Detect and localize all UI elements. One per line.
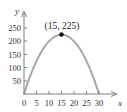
y-tick-label: 100 <box>8 63 21 73</box>
y-axis-label: y <box>14 6 19 16</box>
y-tick-label: 200 <box>8 36 21 46</box>
y-tick-label: 150 <box>8 50 21 60</box>
x-tick-label: 5 <box>34 98 38 108</box>
x-tick-label: 10 <box>45 98 54 108</box>
x-tick-label: 20 <box>70 98 79 108</box>
x-tick-label: 0 <box>22 98 26 108</box>
x-tick-label: 15 <box>57 98 66 108</box>
x-axis-label: x <box>117 98 122 108</box>
x-tick-label: 25 <box>82 98 91 108</box>
vertex-point <box>59 32 63 36</box>
vertex-annotation: (15, 225) <box>45 21 80 32</box>
x-tick-label: 30 <box>95 98 104 108</box>
parabola-curve <box>24 35 99 94</box>
y-tick-label: 250 <box>8 23 21 33</box>
y-tick-label: 50 <box>13 76 22 86</box>
chart-svg: 250 200 150 100 50 0 5 10 15 20 25 30 y … <box>0 0 127 112</box>
